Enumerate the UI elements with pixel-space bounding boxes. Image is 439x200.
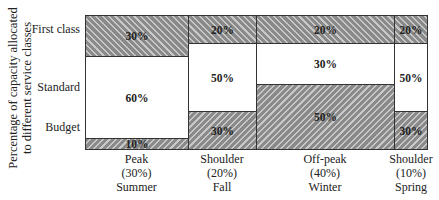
x-label-winter: Off-peak (40%) Winter xyxy=(256,152,394,194)
x-label-fall: Shoulder (20%) Fall xyxy=(188,152,256,194)
column-peak: 30% 60% 10% xyxy=(86,16,189,149)
segment-fall-budget: 30% xyxy=(189,111,256,149)
segment-spring-budget: 30% xyxy=(395,111,427,149)
x-label-spring: Shoulder (10%) Spring xyxy=(384,152,438,194)
segment-peak-budget: 10% xyxy=(86,138,188,149)
x-label-peak: Peak (30%) Summer xyxy=(85,152,188,194)
column-spring: 20% 50% 30% xyxy=(395,16,427,149)
segment-peak-first-class: 30% xyxy=(86,16,188,57)
row-label-budget: Budget xyxy=(10,120,80,135)
mosaic-chart: 30% 60% 10% 20% 50% 30% 20% 30% 50% 20% … xyxy=(85,15,428,150)
segment-fall-first-class: 20% xyxy=(189,16,256,44)
segment-spring-standard: 50% xyxy=(395,44,427,111)
segment-winter-first-class: 20% xyxy=(257,16,394,44)
segment-spring-first-class: 20% xyxy=(395,16,427,44)
segment-fall-standard: 50% xyxy=(189,44,256,111)
segment-winter-budget: 50% xyxy=(257,84,394,149)
row-label-standard: Standard xyxy=(10,80,80,95)
column-fall: 20% 50% 30% xyxy=(189,16,257,149)
segment-peak-standard: 60% xyxy=(86,57,188,138)
row-label-first-class: First class xyxy=(10,22,80,37)
segment-winter-standard: 30% xyxy=(257,44,394,84)
column-winter: 20% 30% 50% xyxy=(257,16,395,149)
